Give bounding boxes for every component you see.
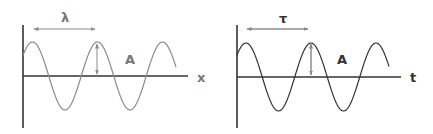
x-axis-label: x <box>197 70 206 85</box>
wave-diagram: λ A x τ A t <box>0 0 433 134</box>
t-axis-label: t <box>410 70 416 85</box>
amplitude-label: A <box>337 52 347 67</box>
spatial-wave-panel: λ A x <box>23 10 206 128</box>
amplitude-label: A <box>125 52 135 67</box>
period-label: τ <box>279 11 287 26</box>
wavelength-label: λ <box>61 10 69 25</box>
temporal-wave-panel: τ A t <box>237 11 416 128</box>
